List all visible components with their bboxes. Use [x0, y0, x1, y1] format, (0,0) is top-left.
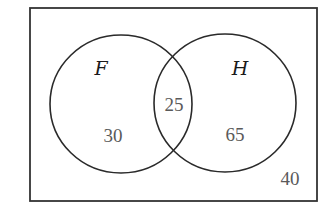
- set-h-label: H: [231, 57, 249, 79]
- venn-diagram: F H 30 25 65 40: [0, 0, 332, 222]
- set-f-label: F: [93, 57, 108, 79]
- f-only-count: 30: [104, 125, 123, 146]
- h-only-count: 65: [226, 124, 245, 145]
- outside-count: 40: [281, 168, 300, 189]
- intersection-count: 25: [165, 94, 184, 115]
